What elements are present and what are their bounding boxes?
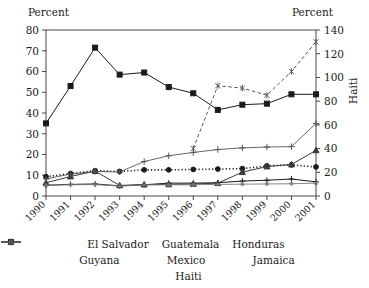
legend-label-el-salvador: El Salvador — [87, 238, 148, 250]
svg-text:1996: 1996 — [170, 199, 195, 224]
svg-text:1999: 1999 — [243, 199, 268, 224]
svg-text:1994: 1994 — [121, 199, 146, 224]
series-honduras — [43, 176, 319, 189]
svg-text:1995: 1995 — [145, 199, 170, 224]
series-mexico — [44, 181, 318, 188]
legend-item-guyana[interactable]: Guyana — [20, 254, 120, 266]
svg-text:1997: 1997 — [194, 199, 219, 224]
svg-text:2000: 2000 — [268, 199, 293, 224]
series-guyana — [43, 147, 319, 187]
legend-item-haiti[interactable]: Haiti — [172, 270, 201, 282]
series-haiti — [191, 38, 319, 152]
svg-text:30: 30 — [26, 128, 39, 140]
legend-item-mexico[interactable]: Mexico — [130, 254, 240, 266]
svg-text:10: 10 — [26, 169, 39, 181]
legend-label-jamaica: Jamaica — [253, 254, 295, 266]
svg-text:120: 120 — [324, 48, 344, 60]
legend-label-guyana: Guyana — [79, 254, 119, 266]
legend-label-haiti: Haiti — [175, 270, 201, 282]
svg-text:50: 50 — [26, 86, 39, 98]
legend-item-guatemala[interactable]: Guatemala — [159, 238, 220, 250]
legend-label-mexico: Mexico — [167, 254, 205, 266]
legend-item-el-salvador[interactable]: El Salvador — [84, 238, 148, 250]
legend-label-honduras: Honduras — [232, 238, 284, 250]
svg-text:20: 20 — [26, 148, 39, 160]
legend-row-3: Haiti — [0, 268, 369, 284]
legend-row-1: El Salvador Guatemala Honduras — [0, 236, 369, 252]
svg-text:60: 60 — [324, 119, 337, 131]
svg-text:0: 0 — [324, 190, 331, 202]
legend-label-guatemala: Guatemala — [162, 238, 220, 250]
svg-text:40: 40 — [324, 142, 337, 154]
legend-row-2: Guyana Mexico Jamaica — [0, 252, 369, 268]
svg-text:140: 140 — [324, 24, 344, 36]
chart-legend: El Salvador Guatemala Honduras Guyana Me… — [0, 236, 369, 284]
svg-text:2001: 2001 — [293, 199, 318, 224]
series-el-salvador — [44, 45, 319, 126]
svg-text:70: 70 — [26, 45, 39, 57]
svg-text:40: 40 — [26, 107, 39, 119]
legend-item-jamaica[interactable]: Jamaica — [250, 254, 350, 266]
chart-plot-area: 0102030405060708002040608010012014019901… — [0, 0, 369, 240]
svg-text:80: 80 — [324, 95, 337, 107]
svg-text:20: 20 — [324, 166, 337, 178]
series-guatemala — [44, 162, 319, 179]
svg-text:1998: 1998 — [219, 199, 244, 224]
svg-text:60: 60 — [26, 65, 39, 77]
svg-text:100: 100 — [324, 71, 344, 83]
svg-text:1992: 1992 — [72, 199, 97, 224]
legend-key-haiti — [0, 236, 22, 248]
svg-text:1991: 1991 — [47, 199, 72, 224]
legend-item-honduras[interactable]: Honduras — [229, 238, 284, 250]
svg-text:1993: 1993 — [96, 199, 121, 224]
svg-text:80: 80 — [26, 24, 39, 36]
series-jamaica — [43, 120, 319, 182]
chart-container: Percent Percent Haiti 010203040506070800… — [0, 0, 369, 288]
svg-text:1990: 1990 — [23, 199, 48, 224]
